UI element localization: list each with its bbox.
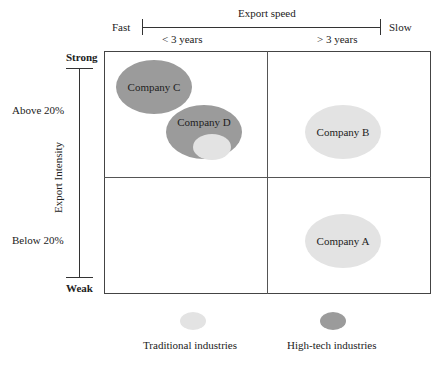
y-axis-bottom-tick xyxy=(66,277,93,278)
y-axis-bottom-end: Weak xyxy=(66,283,93,294)
y-category-strong: Above 20% xyxy=(12,105,64,116)
company-d-label: Company D xyxy=(177,116,230,128)
company-d-traditional-part xyxy=(193,134,231,160)
legend-traditional-swatch xyxy=(180,312,206,330)
y-axis-top-end: Strong xyxy=(66,52,98,63)
x-axis-line xyxy=(142,27,381,28)
legend-high-tech-swatch xyxy=(320,312,346,330)
y-category-weak: Below 20% xyxy=(12,235,64,246)
x-category-fast: < 3 years xyxy=(162,34,202,45)
y-axis-line xyxy=(79,68,80,277)
legend-traditional-label: Traditional industries xyxy=(143,340,237,351)
x-axis-left-end: Fast xyxy=(112,22,130,33)
x-category-slow: > 3 years xyxy=(317,34,357,45)
company-c-bubble: Company C xyxy=(116,60,192,114)
x-axis-right-tick xyxy=(380,19,381,35)
grid-vertical-divider xyxy=(267,51,268,294)
x-axis-title: Export speed xyxy=(238,8,296,19)
legend-high-tech-label: High-tech industries xyxy=(287,340,377,351)
company-a-label: Company A xyxy=(317,235,370,247)
y-axis-title: Export Intensity xyxy=(53,138,64,218)
company-c-label: Company C xyxy=(128,81,181,93)
company-b-label: Company B xyxy=(317,126,370,138)
company-a-bubble: Company A xyxy=(305,214,381,268)
company-b-bubble: Company B xyxy=(305,105,381,159)
x-axis-right-end: Slow xyxy=(389,22,412,33)
grid-horizontal-divider xyxy=(104,177,431,178)
